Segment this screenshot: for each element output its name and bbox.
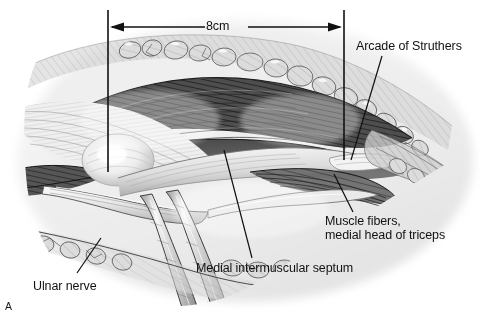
label-line: Arcade of Struthers [356, 40, 462, 54]
label-arcade-of-struthers: Arcade of Struthers [356, 40, 462, 54]
figure-letter: A [5, 301, 12, 312]
label-line: medial head of triceps [325, 229, 445, 243]
label-ulnar-nerve: Ulnar nerve [33, 280, 97, 294]
label-muscle-fibers-triceps: Muscle fibers,medial head of triceps [325, 215, 445, 242]
label-medial-intermuscular-septum: Medial intermuscular septum [196, 262, 353, 276]
label-line: Medial intermuscular septum [196, 262, 353, 276]
figure-container: 8cm Arcade of Struthers Muscle fibers,me… [0, 0, 483, 320]
dimension-label-8cm: 8cm [206, 20, 229, 34]
dimension-arrowhead-left [110, 23, 124, 32]
label-line: Ulnar nerve [33, 280, 97, 294]
label-line: Muscle fibers, [325, 215, 445, 229]
